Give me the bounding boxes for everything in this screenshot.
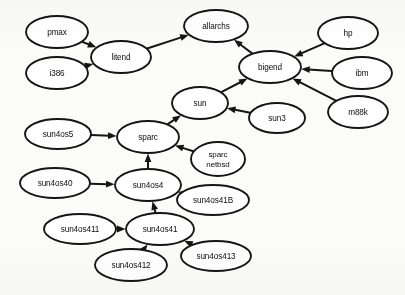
edge-sun4os40-to-sun4os4 <box>90 181 114 188</box>
edge-hp-to-bigend <box>294 43 324 56</box>
arrowhead <box>227 107 236 114</box>
node-sun4os5[interactable]: sun4os5 <box>25 119 91 149</box>
node-layer: pmaxi386litendallarchsbigendhpibmm88ksun… <box>20 10 392 281</box>
node-sparcnetbsd[interactable]: sparcnetbsd <box>191 142 245 176</box>
node-label: sun <box>194 99 207 108</box>
edge-sparcnetbsd-to-sparc <box>175 145 193 151</box>
node-label: sun3 <box>268 114 286 123</box>
edge-sun3-to-sun <box>227 107 250 114</box>
edge-sun4os4-to-sparc <box>145 154 152 169</box>
node-label: bigend <box>258 63 283 72</box>
node-sun3[interactable]: sun3 <box>249 103 305 133</box>
node-label: sun4os413 <box>196 252 236 261</box>
node-sun4os40[interactable]: sun4os40 <box>20 168 90 198</box>
arrowhead <box>175 145 184 151</box>
arrowhead <box>145 154 152 163</box>
node-sun4os4[interactable]: sun4os4 <box>115 169 181 201</box>
edge-sparc-to-sun <box>168 115 181 124</box>
node-hp[interactable]: hp <box>318 17 378 49</box>
node-label: m88k <box>348 108 369 117</box>
node-label: sun4os4 <box>133 181 164 190</box>
node-m88k[interactable]: m88k <box>328 96 388 128</box>
edge-sun4os41-to-sun4os4 <box>151 201 158 212</box>
node-ibm[interactable]: ibm <box>332 57 392 89</box>
arrowhead <box>151 201 158 210</box>
arrowhead <box>87 41 96 47</box>
arrowhead <box>293 79 302 86</box>
edge-m88k-to-bigend <box>293 79 336 101</box>
node-sun[interactable]: sun <box>172 87 228 119</box>
arrowhead <box>238 79 247 86</box>
node-sun4os413[interactable]: sun4os413 <box>181 241 251 271</box>
edge-litend-to-allarchs <box>147 34 189 48</box>
node-i386[interactable]: i386 <box>26 57 88 89</box>
arrowhead <box>106 181 115 188</box>
architecture-graph: pmaxi386litendallarchsbigendhpibmm88ksun… <box>0 0 405 295</box>
node-label: sun4os41B <box>193 196 234 205</box>
node-label: sun4os5 <box>43 130 74 139</box>
edge-pmax-to-litend <box>82 41 96 47</box>
node-label: sun4os40 <box>38 179 73 188</box>
node-label: sun4os411 <box>61 225 100 234</box>
node-label: i386 <box>49 69 65 78</box>
node-label: sparcnetbsd <box>206 150 229 168</box>
edge-ibm-to-bigend <box>301 66 331 73</box>
edge-sun-to-bigend <box>221 79 247 92</box>
arrowhead <box>117 226 126 233</box>
node-pmax[interactable]: pmax <box>26 16 88 48</box>
arrowhead <box>301 66 310 73</box>
node-sun4os41[interactable]: sun4os41 <box>126 213 194 245</box>
node-sun4os411[interactable]: sun4os411 <box>44 214 116 244</box>
node-label: allarchs <box>202 22 229 31</box>
node-bigend[interactable]: bigend <box>239 51 301 83</box>
node-sparc[interactable]: sparc <box>117 121 179 153</box>
node-allarchs[interactable]: allarchs <box>184 10 248 42</box>
edge-bigend-to-allarchs <box>234 40 252 54</box>
node-label: hp <box>344 29 353 38</box>
arrowhead <box>294 50 303 57</box>
edge-sun4os5-to-sparc <box>91 132 116 139</box>
arrowhead <box>172 115 181 123</box>
node-sun4os41B[interactable]: sun4os41B <box>177 185 249 215</box>
node-label: ibm <box>356 69 369 78</box>
node-label: litend <box>112 53 132 62</box>
arrowhead <box>108 132 117 139</box>
node-label: sun4os41 <box>143 225 178 234</box>
edge-sun4os411-to-sun4os41 <box>117 226 126 233</box>
node-label: pmax <box>47 28 67 37</box>
diagram-canvas: pmaxi386litendallarchsbigendhpibmm88ksun… <box>0 0 405 295</box>
node-label: sun4os412 <box>111 261 151 270</box>
node-label: sparc <box>138 133 158 142</box>
arrowhead <box>180 34 189 40</box>
node-sun4os412[interactable]: sun4os412 <box>95 249 167 281</box>
node-litend[interactable]: litend <box>91 41 151 73</box>
